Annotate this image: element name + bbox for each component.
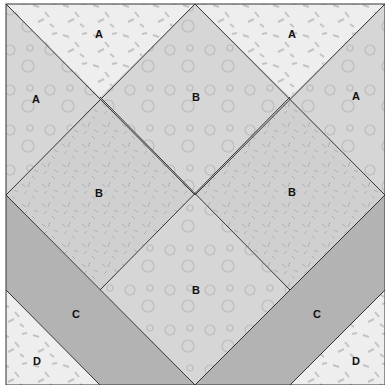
- label-a-left: A: [32, 93, 40, 105]
- label-a-right: A: [352, 90, 360, 102]
- label-c-right: C: [313, 308, 321, 320]
- label-a-top-left: A: [95, 28, 103, 40]
- label-d-left: D: [33, 355, 41, 367]
- label-a-top-right: A: [288, 28, 296, 40]
- quilt-block-diagram: A A A A B B B B C C D D: [0, 0, 385, 385]
- label-b-top: B: [192, 91, 200, 103]
- label-b-left: B: [95, 187, 103, 199]
- label-c-left: C: [72, 308, 80, 320]
- label-b-bottom: B: [192, 284, 200, 296]
- label-b-right: B: [288, 186, 296, 198]
- label-d-right: D: [352, 355, 360, 367]
